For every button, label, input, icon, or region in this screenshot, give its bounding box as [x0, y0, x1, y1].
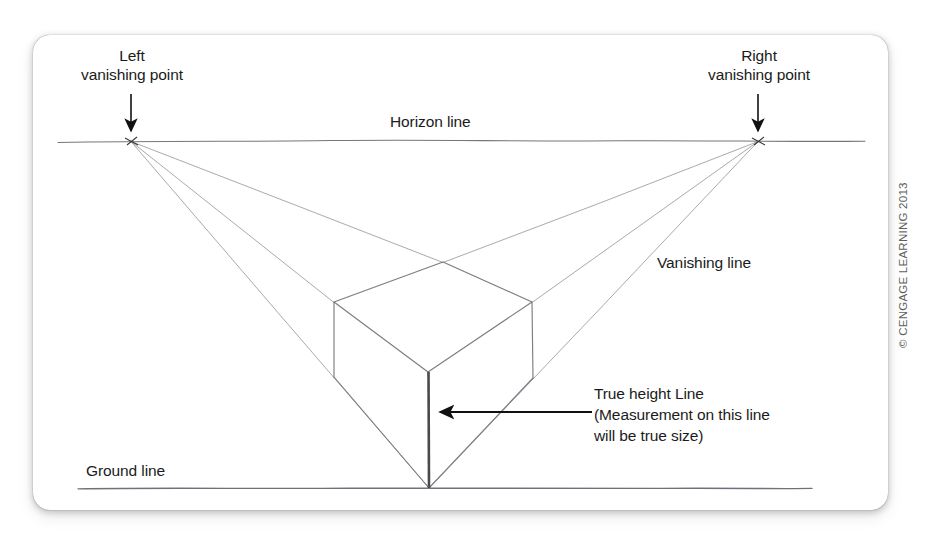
copyright-notice: © CENGAGE LEARNING 2013	[897, 158, 909, 348]
vanishing-line-label: Vanishing line	[657, 253, 751, 272]
figure-canvas: Left vanishing point Right vanishing poi…	[0, 0, 940, 534]
horizon-line-label: Horizon line	[390, 112, 471, 131]
left-vanishing-point-label: Left vanishing point	[52, 46, 212, 84]
ground-line-label: Ground line	[86, 461, 165, 480]
right-vanishing-point-label: Right vanishing point	[679, 46, 839, 84]
true-height-line-label: True height Line (Measurement on this li…	[594, 383, 770, 446]
